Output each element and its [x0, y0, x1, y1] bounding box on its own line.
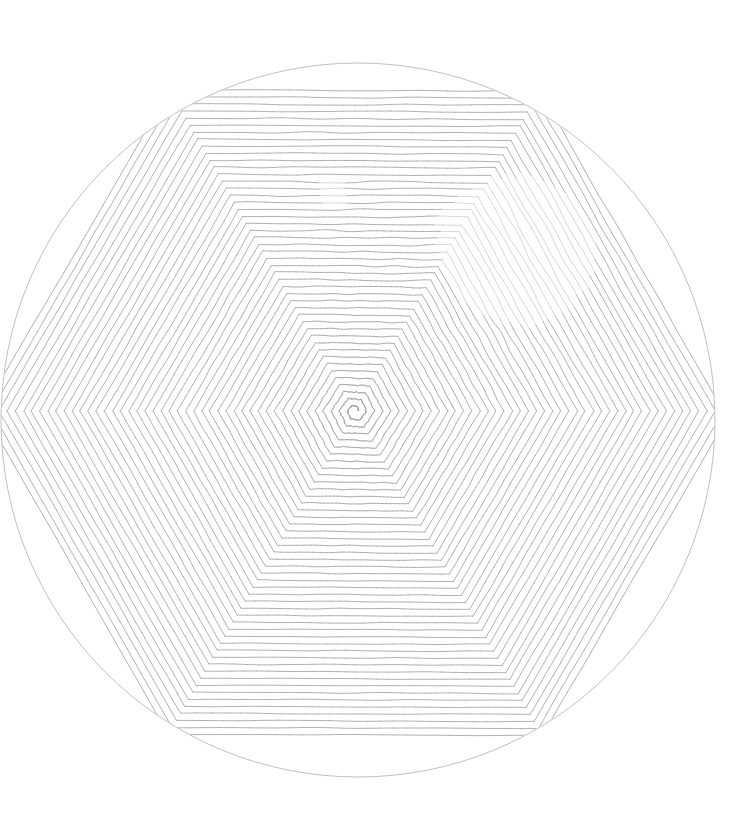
artwork-stage: Hexagonal Spiral in Circle: [0, 0, 741, 829]
hexagonal-spiral-artwork: [0, 0, 741, 829]
